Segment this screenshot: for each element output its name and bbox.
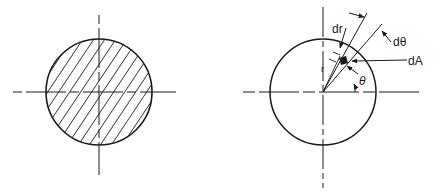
dtheta-arrow-top (349, 13, 364, 17)
area-element (339, 56, 348, 65)
dtheta-arrow-side (382, 31, 391, 42)
dr-tick-outer (333, 52, 340, 55)
theta-arc (354, 84, 355, 92)
dr-tick-inner (329, 59, 336, 62)
label-dtheta: dθ (393, 35, 407, 49)
hatched-circle-diagram (0, 15, 210, 175)
label-theta: θ (359, 74, 366, 88)
dr-lower-arrow (347, 66, 358, 74)
radial-line-r (323, 56, 340, 92)
label-dA: dA (408, 54, 423, 68)
figure-canvas: dr dθ dA θ r (0, 0, 436, 195)
dA-leader (352, 60, 407, 61)
label-dr: dr (332, 22, 343, 36)
polar-element-diagram: dr dθ dA θ r (243, 7, 423, 188)
hatching (0, 30, 210, 150)
label-r: r (321, 64, 324, 74)
